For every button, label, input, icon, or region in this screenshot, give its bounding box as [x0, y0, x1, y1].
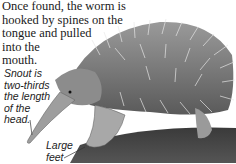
caption-line: Once found, the worm is [2, 0, 152, 14]
main-caption: Once found, the worm is hooked by spines… [2, 0, 152, 68]
caption-line: tongue and pulled [2, 27, 152, 41]
label-line: the length [4, 91, 50, 103]
caption-line: hooked by spines on the [2, 14, 152, 28]
label-line: Large [46, 140, 73, 152]
feet-label: Large feet [46, 140, 73, 163]
caption-line: mouth. [2, 54, 152, 68]
caption-line: into the [2, 41, 152, 55]
label-line: Snout is [4, 68, 50, 80]
label-line: head. [4, 114, 50, 126]
echidna-eye [69, 91, 72, 94]
label-line: feet [46, 152, 73, 164]
snout-label: Snout is two-thirds the length of the he… [4, 68, 50, 126]
